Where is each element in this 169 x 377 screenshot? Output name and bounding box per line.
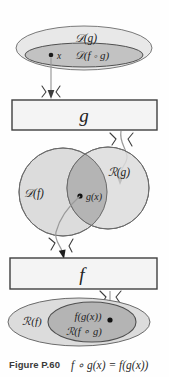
function-box-g[interactable]: g bbox=[12, 100, 157, 130]
domain-of-g-group: 𝒟(g) 𝒟(f ∘ g) x bbox=[16, 26, 152, 70]
figure-formula: f ∘ g(x) = f(g(x)) bbox=[71, 358, 148, 372]
domain-f-label: 𝒟(f) bbox=[24, 187, 44, 200]
figure-container: 𝒟(g) 𝒟(f ∘ g) x g bbox=[0, 0, 169, 377]
function-box-f[interactable]: f bbox=[10, 258, 157, 289]
domain-g-label: 𝒟(g) bbox=[75, 32, 98, 45]
domain-f-range-g-group: 𝒟(f) ℛ(g) g(x) bbox=[19, 147, 149, 236]
range-f-label: ℛ(f) bbox=[22, 315, 42, 328]
range-g-label: ℛ(g) bbox=[108, 166, 131, 179]
range-of-f-group: ℛ(f) f(g(x)) ℛ(f ∘ g) bbox=[8, 298, 150, 346]
point-gx-label: g(x) bbox=[86, 191, 103, 203]
point-x-dot bbox=[49, 53, 54, 58]
fgx-value-label: f(g(x)) bbox=[75, 311, 102, 323]
composition-diagram: 𝒟(g) 𝒟(f ∘ g) x g bbox=[0, 0, 169, 352]
point-x-label: x bbox=[56, 51, 62, 61]
domain-fg-label: 𝒟(f ∘ g) bbox=[75, 49, 110, 62]
box-g-label: g bbox=[79, 105, 89, 126]
range-fg-label: ℛ(f ∘ g) bbox=[66, 326, 102, 338]
point-fgx-dot bbox=[107, 317, 112, 322]
figure-number-label: Figure P.60 bbox=[9, 359, 60, 370]
figure-caption: Figure P.60 f ∘ g(x) = f(g(x)) bbox=[0, 352, 169, 377]
